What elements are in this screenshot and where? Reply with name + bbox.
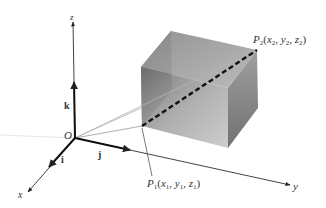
p2-close-paren: ) [302, 33, 306, 45]
p2-comma-1: , [275, 33, 278, 45]
p2-comma-2: , [289, 33, 292, 45]
p1-comma-1: , [169, 177, 172, 189]
k-label: k [64, 101, 70, 111]
y-axis-label: y [293, 181, 298, 192]
x-axis-label: x [18, 190, 22, 200]
p1-label: P1(x1, y1, z1) [147, 178, 200, 191]
diagram-canvas: z x y O k j i P1(x1, y1, z1) P2(x2, y2, … [0, 0, 326, 208]
p1-comma-2: , [183, 177, 186, 189]
p1-close-paren: ) [196, 177, 200, 189]
z-axis-label: z [70, 13, 74, 22]
position-vector-p1 [75, 126, 142, 138]
p1-leader-line [142, 128, 152, 176]
j-label: j [98, 150, 101, 160]
unit-vector-k [74, 82, 75, 138]
unit-vector-j [75, 138, 130, 150]
p2-name: P [253, 33, 260, 45]
p1-name: P [147, 177, 154, 189]
origin-label: O [64, 130, 72, 141]
i-label: i [61, 155, 64, 165]
p2-label: P2(x2, y2, z2) [253, 34, 306, 47]
